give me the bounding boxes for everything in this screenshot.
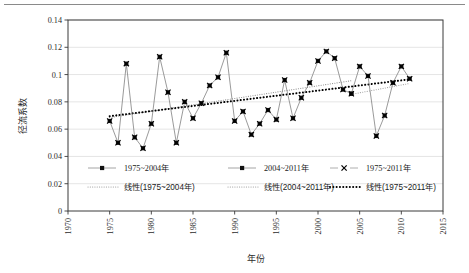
grid-lines: [68, 20, 443, 184]
y-tick-label: 0.1: [52, 71, 62, 80]
legend-label: 1975~2011年: [366, 163, 411, 173]
legend-label: 线性(1975~2011年): [366, 182, 436, 192]
x-tick-label: 1975: [106, 218, 115, 234]
legend-item: [88, 166, 116, 170]
legend-item: [228, 166, 256, 170]
x-tick-label: 1970: [64, 218, 73, 234]
chart-legend: 1975~2004年2004~2011年1975~2011年线性(1975~20…: [88, 163, 436, 192]
y-axis-title: 径流系数: [17, 98, 28, 134]
y-tick-label: 0.08: [48, 98, 62, 107]
y-tick-label: 0.04: [48, 152, 62, 161]
legend-label: 线性(1975~2004年): [124, 182, 195, 192]
data-series-group: [107, 49, 412, 151]
x-tick-label: 1990: [231, 218, 240, 234]
x-tick-label: 1995: [272, 218, 281, 234]
x-tick-label: 1980: [147, 218, 156, 234]
y-tick-label: 0.12: [48, 43, 62, 52]
legend-label: 1975~2004年: [124, 163, 169, 173]
runoff-coefficient-line-chart: 00.020.040.060.080.10.120.14 19701975198…: [0, 0, 469, 273]
x-tick-label: 2000: [314, 218, 323, 234]
x-axis-tick-labels: 1970197519801985199019952000200520102015: [64, 218, 448, 234]
y-axis-ticks: [65, 20, 69, 211]
y-tick-label: 0: [58, 207, 62, 216]
trendline: [351, 83, 409, 94]
legend-label: 线性(2004~2011年): [264, 182, 334, 192]
x-tick-label: 2005: [356, 218, 365, 234]
legend-label: 2004~2011年: [264, 163, 309, 173]
x-tick-label: 2015: [439, 218, 448, 234]
series-line: [351, 66, 409, 136]
x-axis-ticks: [68, 211, 443, 215]
x-axis-title: 年份: [247, 253, 265, 264]
x-tick-label: 1985: [189, 218, 198, 234]
series-line: [110, 51, 352, 148]
y-tick-label: 0.02: [48, 180, 62, 189]
y-tick-label: 0.14: [48, 16, 62, 25]
y-tick-label: 0.06: [48, 125, 62, 134]
x-tick-label: 2010: [397, 218, 406, 234]
y-axis-tick-labels: 00.020.040.060.080.10.120.14: [48, 16, 62, 216]
legend-item: [330, 165, 358, 170]
chart-figure: 00.020.040.060.080.10.120.14 19701975198…: [0, 0, 469, 273]
